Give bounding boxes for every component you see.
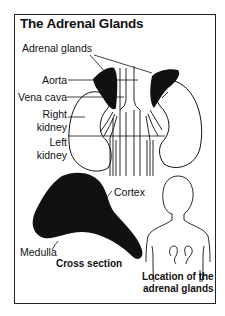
right-kidney	[69, 92, 111, 171]
label-medulla: Medulla	[20, 246, 57, 258]
label-left-kidney-line1: Left	[30, 136, 67, 148]
label-right-kidney-line2: kidney	[30, 121, 67, 133]
label-left-kidney-line2: kidney	[30, 149, 67, 161]
label-cortex: Cortex	[114, 186, 145, 198]
label-location-line2: adrenal glands	[143, 283, 214, 295]
label-right-kidney-line1: Right	[30, 108, 67, 120]
label-adrenal-glands: Adrenal glands	[22, 42, 92, 54]
right-adrenal-gland	[93, 68, 117, 110]
label-vena-cava: Vena cava	[14, 91, 67, 103]
label-cross-section: Cross section	[56, 258, 122, 270]
human-outline	[146, 176, 210, 282]
left-adrenal-gland	[150, 69, 179, 108]
label-location-line1: Location of the	[142, 271, 214, 283]
label-aorta: Aorta	[40, 74, 67, 86]
